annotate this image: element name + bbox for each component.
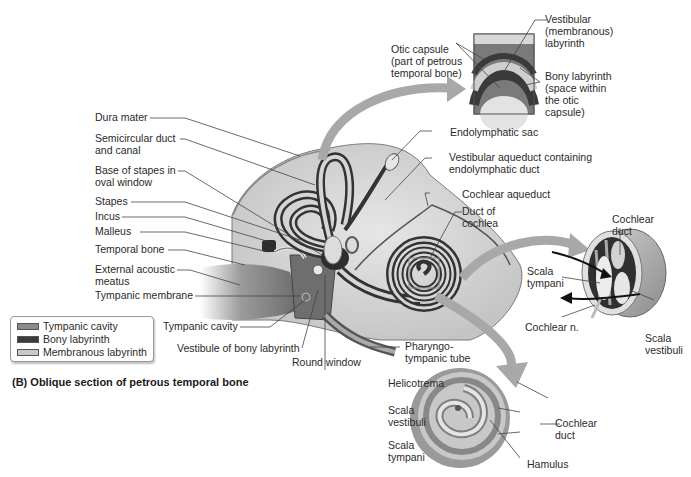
label-otic-capsule-sub1: (part of petrous (391, 56, 462, 68)
label-sp-cochlear-duct: Cochlear (555, 418, 597, 430)
label-tympanic-cavity: Tympanic cavity (163, 321, 238, 333)
label-endolymphatic-duct: endolymphatic duct (449, 164, 539, 176)
label-duct-of-cochlea: Duct of (462, 206, 495, 218)
label-tympanic-tube: tympanic tube (405, 353, 470, 365)
label-external-acoustic: External acoustic (95, 264, 175, 276)
label-incus: Incus (95, 211, 120, 223)
label-hamulus: Hamulus (527, 459, 568, 471)
label-base-of-stapes: Base of stapes in (95, 165, 176, 177)
label-cochlear-nerve: Cochlear n. (525, 322, 579, 334)
label-vestibular-membranous: (membranous) (545, 26, 613, 38)
label-vestibule: Vestibule of bony labyrinth (177, 343, 300, 355)
label-round-window: Round window (292, 357, 361, 369)
ear-anatomy-figure: Dura mater Semicircular duct and canal B… (0, 0, 691, 477)
figure-caption: (B) Oblique section of petrous temporal … (12, 376, 249, 388)
label-helicotrema: Helicotrema (388, 378, 444, 390)
label-cs-cochlear-duct: Cochlear (612, 214, 654, 226)
label-sp-scala-vestibuli: Scala (388, 405, 414, 417)
label-otic-capsule-sub2: temporal bone) (391, 68, 462, 80)
label-cs-duct: duct (612, 226, 632, 238)
label-pharyngo: Pharyngo- (405, 341, 453, 353)
label-bony-labyrinth-sub2: the otic (545, 95, 579, 107)
label-vestibular-aqueduct: Vestibular aqueduct containing (449, 152, 592, 164)
swatch-bony-labyrinth (17, 336, 39, 343)
label-cs-scala-tympani: Scala (527, 266, 553, 278)
legend-item-bony-labyrinth: Bony labyrinth (17, 333, 153, 345)
label-semicircular-canal: and canal (95, 145, 141, 157)
legend-item-tympanic-cavity: Tympanic cavity (17, 320, 153, 332)
legend: Tympanic cavity Bony labyrinth Membranou… (10, 316, 154, 362)
swatch-membranous-labyrinth (17, 349, 39, 356)
label-cochlea: cochlea (462, 218, 498, 230)
label-endolymphatic-sac: Endolymphatic sac (450, 127, 538, 139)
label-sp-vestibuli: vestibuli (388, 417, 426, 429)
label-meatus: meatus (95, 276, 129, 288)
label-vestibular-labyrinth-word: labyrinth (545, 38, 585, 50)
external-acoustic-meatus (200, 264, 300, 320)
label-bony-labyrinth-sub1: (space within (545, 83, 606, 95)
label-vestibular-labyrinth: Vestibular (545, 14, 591, 26)
label-stapes: Stapes (95, 196, 128, 208)
swatch-tympanic-cavity (17, 323, 39, 330)
label-sp-duct: duct (555, 430, 575, 442)
label-bony-labyrinth-sub3: capsule) (545, 107, 585, 119)
label-cs-vestibuli: vestibuli (645, 345, 683, 357)
label-temporal-bone: Temporal bone (95, 244, 164, 256)
label-sp-tympani: tympani (388, 452, 425, 464)
label-otic-capsule: Otic capsule (391, 44, 449, 56)
label-cs-tympani: tympani (527, 278, 564, 290)
label-sp-scala-tympani: Scala (388, 440, 414, 452)
label-oval-window: oval window (95, 177, 152, 189)
label-tympanic-membrane: Tympanic membrane (95, 290, 193, 302)
label-bony-labyrinth: Bony labyrinth (545, 71, 612, 83)
label-cochlear-aqueduct: Cochlear aqueduct (462, 189, 550, 201)
label-cs-scala-vestibuli: Scala (645, 333, 671, 345)
label-semicircular-duct: Semicircular duct (95, 133, 176, 145)
label-malleus: Malleus (95, 226, 131, 238)
otic-capsule-inset (474, 34, 534, 132)
label-dura-mater: Dura mater (95, 112, 148, 124)
legend-item-membranous-labyrinth: Membranous labyrinth (17, 346, 153, 358)
